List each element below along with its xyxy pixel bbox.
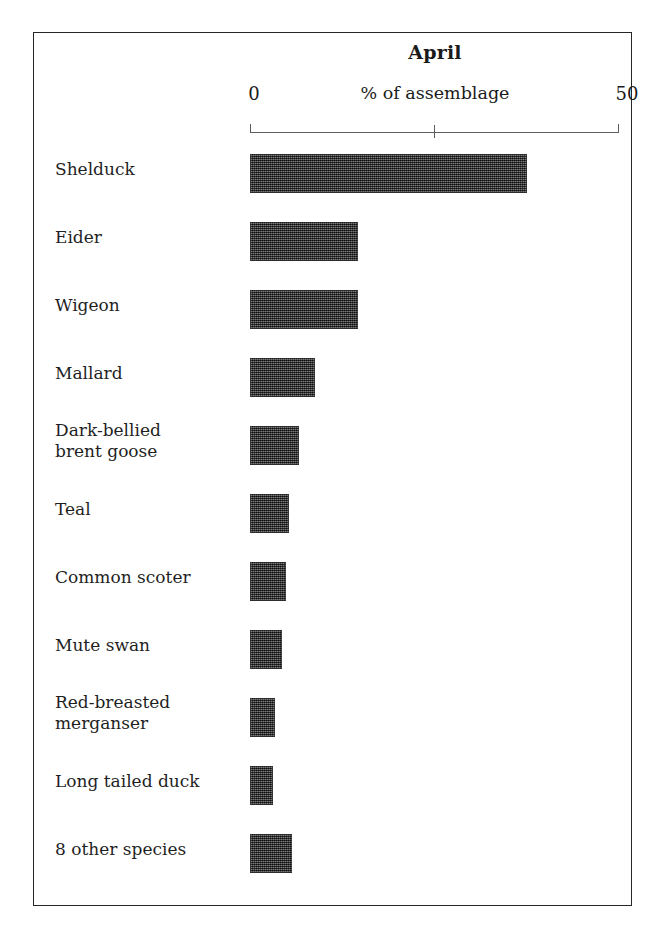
- bar-category-label: Teal: [55, 499, 245, 520]
- bar-category-label: 8 other species: [55, 839, 245, 860]
- bar-track: [250, 766, 619, 805]
- bar-track: [250, 290, 619, 329]
- bar-track: [250, 834, 619, 873]
- bar-category-label: Long tailed duck: [55, 771, 245, 792]
- bar-track: [250, 630, 619, 669]
- bar: [250, 222, 358, 261]
- bar: [250, 630, 282, 669]
- x-axis-tick-50: [618, 124, 619, 133]
- bar-row: Wigeon: [34, 283, 633, 351]
- bar-track: [250, 358, 619, 397]
- bar-category-label: Red-breasted merganser: [55, 692, 245, 734]
- bar-track: [250, 698, 619, 737]
- chart-figure: April % of assemblage 0 50 ShelduckEider…: [33, 32, 632, 906]
- x-axis-tick-25: [434, 125, 435, 138]
- bar-category-label: Mute swan: [55, 635, 245, 656]
- bar-row: Eider: [34, 215, 633, 283]
- bar-track: [250, 562, 619, 601]
- bar: [250, 766, 273, 805]
- bar-track: [250, 494, 619, 533]
- bar: [250, 426, 299, 465]
- bar-row: Mallard: [34, 351, 633, 419]
- bar-rows: ShelduckEiderWigeonMallardDark-bellied b…: [34, 147, 633, 895]
- bar: [250, 562, 286, 601]
- bar-category-label: Dark-bellied brent goose: [55, 420, 245, 462]
- bar: [250, 834, 292, 873]
- bar-track: [250, 426, 619, 465]
- bar-category-label: Wigeon: [55, 295, 245, 316]
- bar-track: [250, 154, 619, 193]
- bar-row: Teal: [34, 487, 633, 555]
- chart-title: April: [250, 41, 620, 63]
- bar: [250, 154, 527, 193]
- bar-track: [250, 222, 619, 261]
- x-axis-tick-label-max: 50: [607, 83, 647, 104]
- bar-row: Mute swan: [34, 623, 633, 691]
- bar-category-label: Mallard: [55, 363, 245, 384]
- bar-category-label: Common scoter: [55, 567, 245, 588]
- x-axis: [250, 124, 619, 136]
- bar-category-label: Eider: [55, 227, 245, 248]
- bar-row: Red-breasted merganser: [34, 691, 633, 759]
- bar-row: 8 other species: [34, 827, 633, 895]
- bar-category-label: Shelduck: [55, 159, 245, 180]
- bar-row: Shelduck: [34, 147, 633, 215]
- x-axis-tick-label-min: 0: [242, 83, 266, 104]
- bar-row: Common scoter: [34, 555, 633, 623]
- x-axis-tick-0: [250, 124, 251, 133]
- bar-row: Dark-bellied brent goose: [34, 419, 633, 487]
- x-axis-label: % of assemblage: [250, 83, 620, 103]
- bar-row: Long tailed duck: [34, 759, 633, 827]
- bar: [250, 494, 289, 533]
- bar: [250, 698, 275, 737]
- bar: [250, 290, 358, 329]
- bar: [250, 358, 315, 397]
